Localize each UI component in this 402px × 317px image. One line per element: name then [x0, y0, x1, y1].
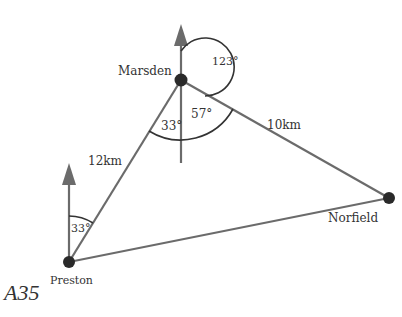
figure-caption: A35 [4, 280, 39, 306]
marsden-dot [175, 74, 188, 87]
label-preston: Preston [50, 274, 93, 287]
norfield-dot [383, 192, 395, 204]
label-angle-33-marsden: 33° [161, 119, 182, 133]
side-preston-norfield [69, 198, 389, 262]
label-dist-12km: 12km [88, 154, 123, 168]
label-norfield: Norfield [328, 211, 378, 225]
label-marsden: Marsden [118, 64, 172, 78]
preston-dot [63, 256, 75, 268]
label-angle-33-preston: 33° [71, 222, 91, 235]
preston-north-arrow-icon [62, 163, 76, 185]
bearing-diagram: Marsden Preston Norfield 12km 10km 123° … [0, 0, 402, 317]
label-angle-123: 123° [212, 55, 239, 68]
side-marsden-norfield [181, 80, 389, 198]
marsden-north-arrow-icon [174, 24, 188, 46]
label-dist-10km: 10km [267, 118, 302, 132]
label-angle-57: 57° [191, 107, 212, 121]
